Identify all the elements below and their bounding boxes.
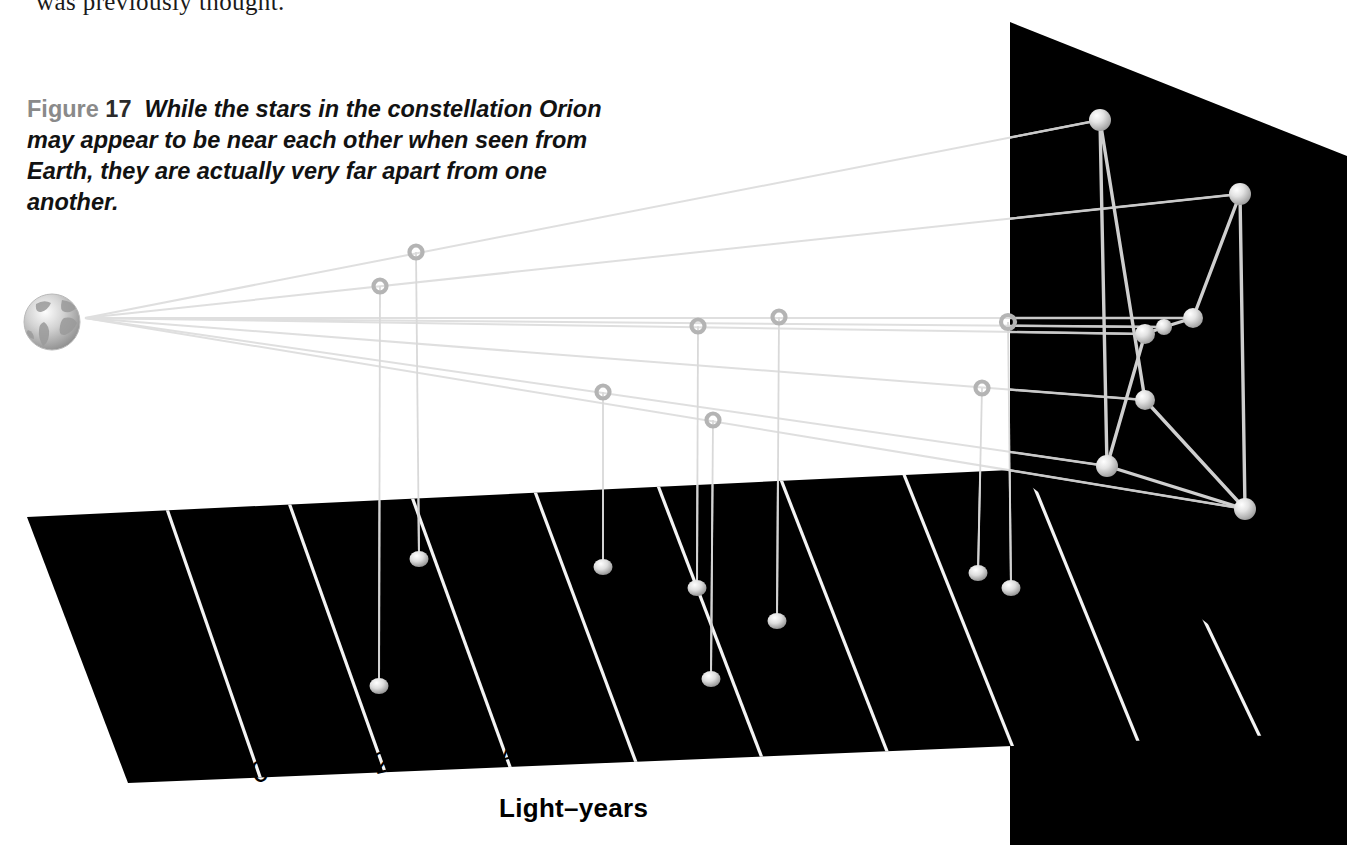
earth-globe-icon <box>24 294 80 350</box>
floor-star-dot <box>969 565 988 581</box>
figure-label: Figure <box>27 96 99 122</box>
star-sphere <box>1135 390 1155 410</box>
star-sphere <box>1096 455 1118 477</box>
floor-star-dot <box>702 671 721 687</box>
axis-title: Light–years <box>499 793 648 824</box>
running-body-text: was previously thought. <box>36 0 285 16</box>
floor-star-dot <box>1002 580 1021 596</box>
floor-star-dot <box>768 613 787 629</box>
floor-star-dot <box>688 580 707 596</box>
floor-star-dot <box>410 551 429 567</box>
star-sphere <box>1156 319 1172 335</box>
apparent-position-markers <box>374 246 1016 427</box>
floor-star-dot <box>370 678 389 694</box>
figure-number: 17 <box>105 96 131 122</box>
figure-caption: Figure 17 While the stars in the constel… <box>27 94 627 218</box>
floor-star-dot <box>594 559 613 575</box>
star-sphere <box>1135 324 1155 344</box>
star-sphere <box>1089 109 1111 131</box>
star-sphere <box>1229 183 1251 205</box>
star-sphere <box>1183 308 1203 328</box>
star-sphere <box>1234 498 1256 520</box>
